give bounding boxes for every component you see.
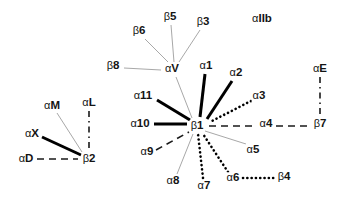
node-aV: αV bbox=[164, 63, 180, 75]
node-aX: αX bbox=[24, 128, 40, 140]
node-a7: α7 bbox=[197, 180, 212, 192]
node-aIIb-body: IIb bbox=[258, 12, 271, 24]
node-a3-body: 3 bbox=[259, 89, 265, 101]
node-a5-body: 5 bbox=[253, 143, 259, 155]
node-b2-body: 2 bbox=[89, 152, 95, 164]
node-b8: β8 bbox=[106, 60, 121, 72]
node-b7-body: 7 bbox=[320, 117, 326, 129]
node-b2: β2 bbox=[82, 153, 97, 165]
node-aD: αD bbox=[18, 153, 35, 165]
node-a9-body: 9 bbox=[147, 145, 153, 157]
node-aE: αE bbox=[312, 63, 328, 75]
node-a3: α3 bbox=[252, 90, 267, 102]
node-a6: α6 bbox=[226, 172, 241, 184]
node-a6-body: 6 bbox=[233, 171, 239, 183]
node-aE-body: E bbox=[319, 62, 327, 74]
node-aM-body: M bbox=[50, 99, 60, 111]
node-b5: β5 bbox=[163, 11, 178, 23]
node-a2: α2 bbox=[229, 67, 244, 79]
node-aD-body: D bbox=[25, 152, 33, 164]
node-a11-body: 11 bbox=[140, 89, 152, 101]
node-aL-body: L bbox=[89, 96, 96, 108]
integrin-diagram: αMαLαXαDβ2β6β5β3β8αVαIIbα1α2αEα11α3α10β1… bbox=[0, 0, 345, 199]
node-b5-body: 5 bbox=[170, 10, 176, 22]
node-b3-body: 3 bbox=[203, 15, 209, 27]
node-b4-body: 4 bbox=[284, 170, 290, 182]
node-b4: β4 bbox=[277, 171, 292, 183]
node-a9: α9 bbox=[140, 146, 155, 158]
node-a2-body: 2 bbox=[236, 66, 242, 78]
node-aX-body: X bbox=[31, 127, 39, 139]
node-b1-body: 1 bbox=[197, 119, 203, 131]
node-b8-body: 8 bbox=[113, 59, 119, 71]
node-aIIb: αIIb bbox=[251, 13, 273, 25]
node-a5: α5 bbox=[246, 144, 261, 156]
node-a11: α11 bbox=[133, 90, 154, 102]
node-b6-body: 6 bbox=[139, 24, 145, 36]
node-a4: α4 bbox=[259, 118, 274, 130]
node-aM: αM bbox=[43, 100, 61, 112]
node-b7: β7 bbox=[313, 118, 328, 130]
node-a8-body: 8 bbox=[173, 174, 179, 186]
node-b6: β6 bbox=[132, 25, 147, 37]
node-b3: β3 bbox=[196, 16, 211, 28]
node-b1: β1 bbox=[190, 120, 205, 132]
node-layer: αMαLαXαDβ2β6β5β3β8αVαIIbα1α2αEα11α3α10β1… bbox=[0, 0, 345, 199]
node-a1-body: 1 bbox=[206, 59, 212, 71]
node-aV-body: V bbox=[171, 62, 179, 74]
node-aL: αL bbox=[81, 97, 96, 109]
node-a10: α10 bbox=[129, 118, 150, 130]
node-a7-body: 7 bbox=[204, 179, 210, 191]
node-a4-body: 4 bbox=[266, 117, 272, 129]
node-a10-body: 10 bbox=[137, 117, 150, 129]
node-a8: α8 bbox=[166, 175, 181, 187]
node-a1: α1 bbox=[199, 60, 214, 72]
